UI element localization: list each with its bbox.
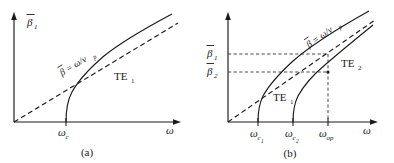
panel-b-y-tick-beta2-text: β (206, 65, 213, 77)
panel-b-omega-op-label: ω op (319, 127, 334, 142)
panel-b-y-tick-beta1-sub: 1 (214, 54, 218, 62)
panel-a-plot: β 1 ω ω c β = ω/v p TE 1 (a) (0, 0, 197, 163)
panel-b-y-tick-beta2-label: β 2 (206, 64, 218, 81)
panel-a-te1-label-sub: 1 (131, 77, 135, 85)
panel-b-cutoff1-label: ω c 1 (250, 127, 264, 144)
panel-b-te2-label-sub: 2 (358, 64, 362, 72)
panel-b-te1-label-sub: 1 (290, 98, 294, 106)
panel-a-y-axis-label-text: β (26, 16, 33, 28)
panel-a-y-axis (11, 12, 17, 122)
panel-b-operating-point (326, 70, 329, 73)
panel-a-caption: (a) (81, 146, 94, 159)
panel-a-cutoff-label-sub: c (66, 133, 70, 141)
panel-a-asymptote-formula-sub: p (90, 52, 98, 61)
panel-b-te2-label-text: TE (341, 57, 355, 69)
panel-b-cutoff2-label-subsub: 2 (296, 138, 299, 144)
panel-a-te1-label-text: TE (114, 70, 128, 82)
panel-a-te1-label: TE 1 (114, 70, 135, 85)
panel-b-x-axis (228, 119, 378, 125)
panel-b-cutoff1-label-subsub: 1 (261, 138, 264, 144)
panel-b-caption: (b) (284, 147, 297, 160)
panel-b-te2-label: TE 2 (341, 57, 362, 72)
panel-b-cutoff2-label: ω c 2 (285, 127, 299, 144)
panel-b-te1-label-text: TE (273, 91, 287, 103)
panel-b-asymptote (228, 20, 375, 122)
panel-a: β 1 ω ω c β = ω/v p TE 1 (a) (0, 0, 197, 163)
panel-b-omega-op-label-sub: op (327, 134, 335, 142)
panel-a-y-axis-label-sub: 1 (34, 23, 38, 31)
panel-b-y-tick-beta1-text: β (206, 47, 213, 59)
panel-b-x-axis-label: ω (363, 124, 371, 136)
panel-a-cutoff-label: ω c (58, 126, 70, 141)
panel-b-y-tick-beta2-sub: 2 (214, 72, 218, 80)
panel-b-te1-label: TE 1 (273, 91, 294, 106)
panel-a-te1-curve (66, 14, 172, 122)
panel-a-x-axis (14, 119, 181, 125)
panel-a-asymptote (14, 23, 178, 122)
dispersion-diagram-figure: β 1 ω ω c β = ω/v p TE 1 (a) (0, 0, 394, 163)
panel-b-y-tick-beta1-label: β 1 (206, 46, 218, 63)
panel-a-y-axis-label: β 1 (26, 15, 38, 32)
panel-b-y-axis (225, 12, 231, 122)
panel-a-x-axis-label: ω (166, 124, 174, 136)
panel-b-plot: β 1 β 2 ω ω c 1 ω c 2 (197, 0, 394, 163)
panel-b: β 1 β 2 ω ω c 1 ω c 2 (197, 0, 394, 163)
